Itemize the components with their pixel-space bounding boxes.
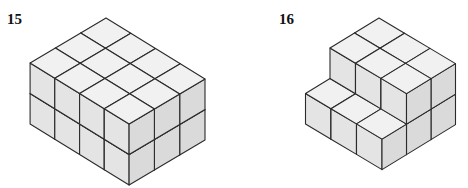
cube-figures-canvas xyxy=(0,0,468,188)
figure-15-cube-stack xyxy=(30,18,205,185)
figure-16-cube-stack xyxy=(306,18,456,170)
